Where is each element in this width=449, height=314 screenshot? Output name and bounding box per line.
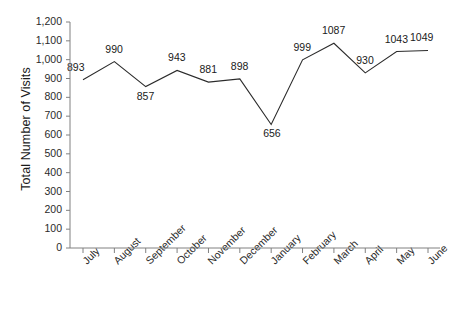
plot-area (0, 0, 449, 314)
series-line (83, 43, 428, 124)
line-chart: Total Number of Visits 01002003004005006… (0, 0, 449, 314)
axes (66, 22, 440, 253)
